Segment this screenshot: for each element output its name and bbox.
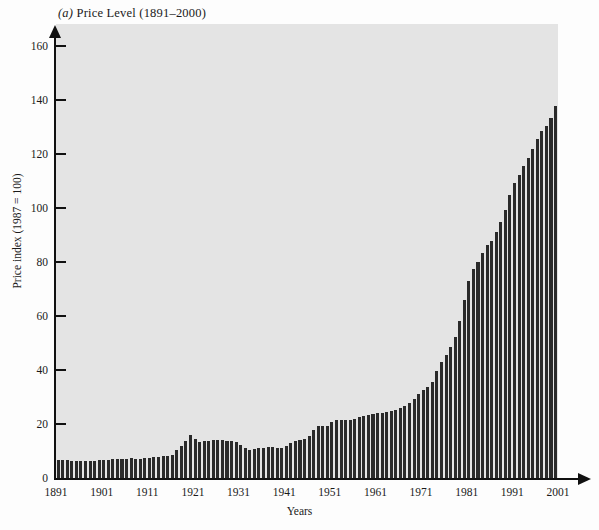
bar: [508, 195, 511, 478]
bar: [390, 411, 393, 478]
x-axis-tick-label: 1911: [125, 486, 169, 498]
bar: [481, 253, 484, 478]
bar: [344, 420, 347, 478]
bar: [513, 183, 516, 478]
bar: [116, 459, 119, 478]
y-axis-tick-label: 0: [0, 472, 48, 484]
bar: [248, 450, 251, 478]
bar: [449, 347, 452, 478]
y-axis-tick: [56, 207, 66, 209]
bar: [98, 460, 101, 478]
y-axis-tick: [56, 315, 66, 317]
bar: [371, 414, 374, 478]
y-axis-tick: [56, 45, 66, 47]
bar: [171, 455, 174, 479]
bar: [221, 440, 224, 478]
y-axis-tick-label: 120: [0, 148, 48, 160]
bar: [362, 416, 365, 478]
bar: [458, 321, 461, 478]
bar: [143, 458, 146, 478]
bar: [472, 269, 475, 478]
bar: [130, 458, 133, 478]
y-axis-tick-label: 40: [0, 364, 48, 376]
bar: [125, 459, 128, 478]
bar: [180, 446, 183, 478]
bar: [312, 430, 315, 478]
bar: [61, 460, 64, 478]
bar: [317, 426, 320, 478]
bar: [440, 362, 443, 478]
bar: [107, 460, 110, 478]
bar: [499, 222, 502, 478]
bar: [276, 448, 279, 478]
bar: [399, 408, 402, 478]
bar: [540, 131, 543, 478]
bar: [490, 241, 493, 478]
bar: [340, 420, 343, 478]
x-axis-tick-label: 1991: [490, 486, 534, 498]
bar: [445, 355, 448, 478]
y-axis-tick: [56, 369, 66, 371]
bar: [358, 417, 361, 478]
bar: [394, 410, 397, 478]
bar: [545, 126, 548, 478]
bar: [212, 440, 215, 478]
bar: [330, 422, 333, 478]
bar: [139, 459, 142, 478]
bar: [134, 459, 137, 478]
y-axis-tick: [56, 153, 66, 155]
bar: [303, 439, 306, 478]
bar: [235, 442, 238, 478]
x-axis-line: [54, 478, 579, 480]
bar: [413, 399, 416, 478]
bar: [157, 457, 160, 478]
bar: [89, 461, 92, 478]
x-axis-tick-label: 1901: [80, 486, 124, 498]
bar: [527, 158, 530, 479]
bar: [454, 337, 457, 478]
bar: [70, 461, 73, 478]
bar: [335, 420, 338, 478]
x-axis-tick-label: 1921: [171, 486, 215, 498]
bar: [162, 456, 165, 478]
x-axis-title: Years: [0, 505, 599, 517]
bar: [244, 448, 247, 478]
y-axis-line: [54, 36, 56, 479]
bar: [467, 281, 470, 478]
bar: [431, 382, 434, 478]
chart-page: (a) Price Level (1891–2000) 020406080100…: [0, 0, 599, 530]
bar: [417, 394, 420, 478]
bar: [84, 461, 87, 478]
bar: [531, 149, 534, 478]
bar: [298, 440, 301, 478]
bar: [536, 139, 539, 478]
y-axis-tick-label: 60: [0, 310, 48, 322]
bar: [102, 460, 105, 478]
chart-title-text: Price Level (1891–2000): [73, 6, 206, 20]
bar: [271, 447, 274, 478]
x-axis-tick-label: 1971: [399, 486, 443, 498]
plot-area: [56, 24, 558, 478]
bar: [403, 406, 406, 478]
bar: [486, 245, 489, 478]
y-axis-tick-label: 20: [0, 418, 48, 430]
bar: [549, 118, 552, 478]
y-axis-tick: [56, 99, 66, 101]
bar: [476, 262, 479, 478]
bar: [230, 441, 233, 478]
bar: [253, 449, 256, 478]
bar: [554, 106, 557, 478]
bar: [239, 445, 242, 478]
bar: [280, 448, 283, 478]
bar: [257, 448, 260, 478]
bar: [285, 446, 288, 478]
bar: [66, 460, 69, 478]
bar: [381, 413, 384, 478]
x-axis-tick-label: 1961: [353, 486, 397, 498]
bar: [203, 441, 206, 478]
bar: [376, 413, 379, 478]
bar-series: [56, 24, 558, 478]
bar: [321, 426, 324, 478]
x-axis-tick-label: 1931: [217, 486, 261, 498]
bar: [225, 441, 228, 478]
